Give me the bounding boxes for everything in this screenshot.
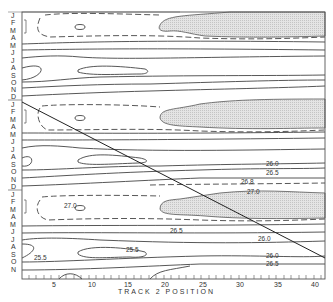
svg-text:26.5: 26.5 (266, 260, 279, 267)
svg-text:26.0: 26.0 (258, 235, 271, 242)
svg-text:25.5: 25.5 (34, 254, 47, 261)
svg-text:O: O (11, 168, 17, 175)
svg-text:5: 5 (52, 281, 56, 288)
svg-text:30: 30 (236, 281, 244, 288)
svg-text:D: D (11, 93, 16, 100)
svg-text:J: J (11, 57, 15, 64)
svg-text:S: S (11, 251, 16, 258)
svg-text:J: J (11, 236, 15, 243)
svg-text:A: A (11, 34, 16, 41)
shaded-regions (159, 12, 325, 219)
svg-text:26.8: 26.8 (241, 178, 254, 185)
svg-text:27.0: 27.0 (247, 188, 260, 195)
svg-text:A: A (11, 243, 16, 250)
svg-text:J: J (11, 12, 15, 19)
x-tick-labels: 5 10 15 20 25 30 35 40 (52, 281, 319, 288)
svg-text:A: A (11, 123, 16, 130)
svg-text:26.0: 26.0 (266, 252, 279, 259)
svg-text:F: F (11, 198, 15, 205)
svg-text:J: J (11, 228, 15, 235)
svg-text:J: J (11, 146, 15, 153)
svg-text:J: J (11, 101, 15, 108)
svg-text:O: O (11, 258, 17, 265)
svg-text:N: N (11, 86, 16, 93)
svg-text:O: O (11, 79, 17, 86)
svg-text:J: J (11, 49, 15, 56)
svg-text:40: 40 (311, 281, 319, 288)
svg-text:26.0: 26.0 (266, 160, 279, 167)
svg-text:F: F (11, 108, 15, 115)
svg-text:S: S (11, 161, 16, 168)
svg-text:M: M (10, 131, 16, 138)
contour-chart: 26.0 26.5 26.8 27.0 26.0 27.0 26.5 25.5 … (0, 0, 333, 302)
svg-text:20: 20 (161, 281, 169, 288)
svg-text:27.0: 27.0 (64, 202, 77, 209)
svg-text:26.5: 26.5 (266, 169, 279, 176)
svg-text:J: J (11, 138, 15, 145)
svg-text:15: 15 (124, 281, 132, 288)
svg-text:A: A (11, 153, 16, 160)
svg-text:N: N (11, 176, 16, 183)
svg-text:N: N (11, 266, 16, 273)
svg-text:S: S (11, 72, 16, 79)
svg-text:10: 10 (88, 281, 96, 288)
svg-text:A: A (11, 64, 16, 71)
contour-lines (22, 25, 325, 280)
x-axis-title: TRACK 2 POSITION (0, 288, 333, 295)
svg-text:M: M (10, 27, 16, 34)
svg-text:M: M (10, 116, 16, 123)
svg-text:M: M (10, 221, 16, 228)
svg-text:M: M (10, 42, 16, 49)
svg-text:35: 35 (274, 281, 282, 288)
svg-text:A: A (11, 213, 16, 220)
svg-text:D: D (11, 183, 16, 190)
svg-text:M: M (10, 206, 16, 213)
svg-text:J: J (11, 191, 15, 198)
svg-text:25.5: 25.5 (126, 246, 139, 253)
month-axis: J F M A M J J A S O N D J F M A M J J A … (10, 12, 17, 273)
svg-text:25: 25 (199, 281, 207, 288)
svg-text:F: F (11, 19, 15, 26)
x-ticks (29, 275, 321, 279)
plot-frame (22, 12, 325, 279)
svg-text:26.5: 26.5 (170, 227, 183, 234)
